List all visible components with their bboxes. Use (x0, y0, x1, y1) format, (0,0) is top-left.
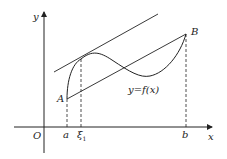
a-tick-label: a (63, 130, 69, 140)
origin-label: O (33, 131, 41, 141)
secant-ab (67, 34, 186, 99)
point-b-label: B (191, 27, 198, 37)
xi-tick-label: ξ1 (77, 130, 86, 142)
tangent-line (54, 14, 158, 72)
y-axis-label: y (33, 12, 39, 22)
curve-label: y=f(x) (128, 85, 159, 95)
b-tick-label: b (182, 130, 188, 140)
xi-subscript: 1 (83, 135, 87, 142)
point-a-label: A (57, 94, 64, 104)
mean-value-diagram: y x O A B a b ξ1 y=f(x) (0, 0, 227, 159)
x-axis-label: x (208, 132, 214, 142)
